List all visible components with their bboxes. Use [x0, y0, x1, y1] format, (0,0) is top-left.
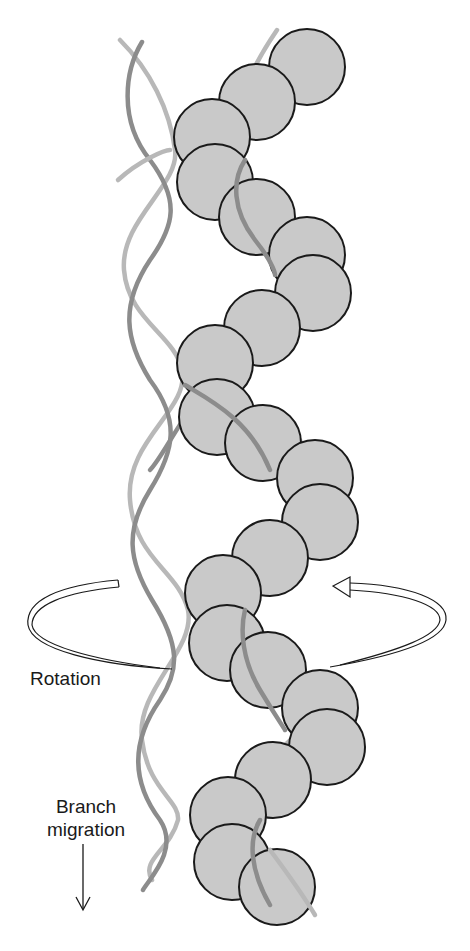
rotation-label: Rotation	[30, 667, 101, 690]
rotation-arrow-right	[330, 577, 446, 667]
protein-filament	[174, 29, 365, 925]
branch-migration-label: Branch migration	[36, 795, 136, 841]
branch-migration-line2: migration	[36, 818, 136, 841]
branch-migration-line1: Branch	[36, 795, 136, 818]
branch-migration-arrow	[76, 844, 90, 910]
